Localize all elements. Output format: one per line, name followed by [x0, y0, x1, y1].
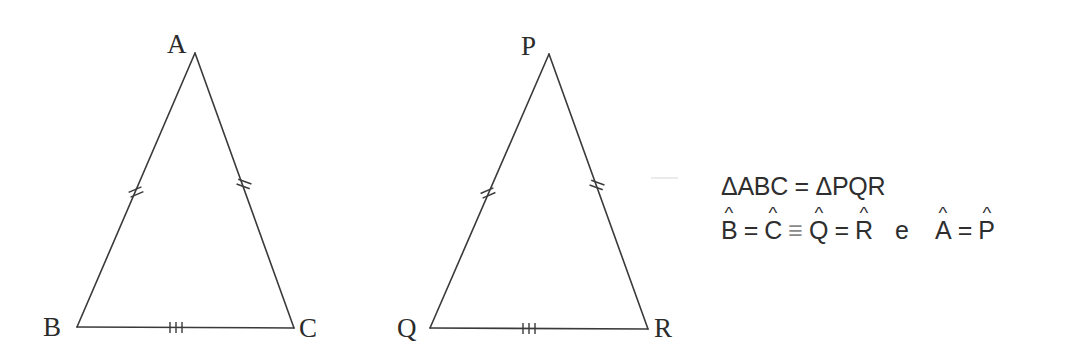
congruent-sign: ≡ — [788, 218, 803, 243]
congruence-statement: ΔABC = ΔPQR — [721, 174, 885, 199]
angle-c: C — [764, 218, 782, 243]
side-bc — [77, 327, 294, 328]
side-pr — [549, 54, 648, 329]
vertex-label-c: C — [299, 313, 317, 343]
triangle-pqr: P Q R — [397, 31, 672, 343]
vertex-label-b: B — [43, 312, 61, 342]
side-pq — [430, 54, 549, 328]
angle-r: R — [855, 218, 873, 243]
side-ac — [195, 53, 294, 328]
angle-q: Q — [809, 218, 828, 243]
tick-double-ac — [237, 179, 252, 188]
vertex-label-a: A — [167, 29, 187, 59]
equals-sign: = — [744, 218, 759, 243]
vertex-label-r: R — [654, 313, 672, 343]
angle-equalities: B = C ≡ Q = R e A = P — [721, 218, 995, 243]
angle-b: B — [721, 218, 738, 243]
angle-p: P — [978, 218, 995, 243]
equals-sign: = — [958, 218, 973, 243]
triangle-abc: A B C — [43, 29, 317, 343]
conjunction-e: e — [895, 218, 909, 243]
side-qr — [430, 328, 648, 329]
angle-a: A — [935, 218, 952, 243]
vertex-label-q: Q — [397, 313, 417, 343]
equals-sign: = — [834, 218, 849, 243]
vertex-label-p: P — [521, 31, 536, 61]
congruent-triangles-figure: A B C P Q R — [0, 0, 1083, 356]
